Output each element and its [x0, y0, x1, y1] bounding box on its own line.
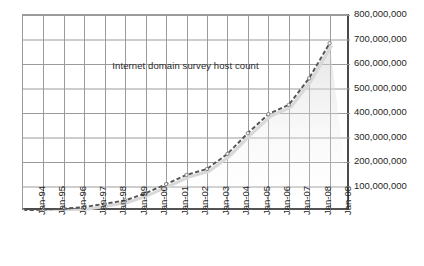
x-axis-tick-label: Jan-08 [323, 186, 333, 215]
x-axis-tick-label: Jan-99 [139, 186, 149, 215]
x-axis-tick-label: Jan-06 [282, 186, 292, 215]
chart-container: Internet domain survey host count 800,00… [0, 0, 424, 266]
x-axis-tick-label: Jan-95 [57, 186, 67, 215]
x-axis-tick-label: Jan-05 [262, 186, 272, 215]
x-axis-tick-label: Jan-02 [200, 186, 210, 215]
x-axis-tick-labels: Jan-94Jan-95Jan-96Jan-97Jan-98Jan-99Jan-… [0, 0, 424, 266]
x-axis-tick-label: Jan-97 [98, 186, 108, 215]
x-axis-tick-label: Jan-01 [180, 186, 190, 215]
x-axis-tick-label: Jan-98 [118, 186, 128, 215]
x-axis-tick-label: Jan-00 [159, 186, 169, 215]
x-axis-tick-label: Jan-08 [343, 186, 353, 215]
x-axis-tick-label: Jan-03 [221, 186, 231, 215]
x-axis-tick-label: Jan-94 [37, 186, 47, 215]
x-axis-tick-label: Jan-04 [241, 186, 251, 215]
x-axis-tick-label: Jan-96 [78, 186, 88, 215]
x-axis-tick-label: Jan-07 [302, 186, 312, 215]
